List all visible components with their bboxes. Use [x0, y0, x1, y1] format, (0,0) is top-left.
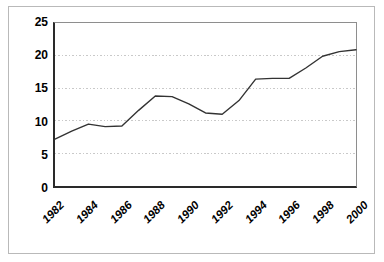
chart-figure: 0510152025 19821984198619881990199219941…: [0, 0, 384, 262]
x-axis: 1982198419861988199019921994199619982000: [0, 0, 384, 262]
x-axis-tick-label: 1982: [0, 199, 66, 262]
